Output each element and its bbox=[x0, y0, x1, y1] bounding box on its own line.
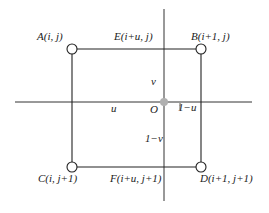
label-b: B(i+1, j) bbox=[191, 30, 230, 43]
origin-point bbox=[160, 98, 168, 106]
node-b-circle bbox=[196, 44, 206, 54]
label-f: F(i+u, j+1) bbox=[109, 172, 162, 185]
node-c-circle bbox=[67, 162, 77, 172]
bilinear-interpolation-diagram: A(i, j) E(i+u, j) B(i+1, j) C(i, j+1) F(… bbox=[0, 0, 269, 213]
diagram-canvas: A(i, j) E(i+u, j) B(i+1, j) C(i, j+1) F(… bbox=[0, 0, 269, 213]
label-d: D(i+1, j+1) bbox=[199, 172, 253, 185]
label-a: A(i, j) bbox=[36, 30, 63, 43]
label-v: v bbox=[151, 75, 156, 87]
label-e: E(i+u, j) bbox=[113, 30, 153, 43]
node-a-circle bbox=[67, 44, 77, 54]
label-one-minus-v: 1−v bbox=[145, 132, 163, 144]
label-c: C(i, j+1) bbox=[38, 172, 78, 185]
label-one-minus-u: 1−u bbox=[178, 101, 197, 113]
label-u: u bbox=[111, 102, 117, 114]
node-d-circle bbox=[196, 162, 206, 172]
label-origin: O bbox=[150, 103, 158, 115]
